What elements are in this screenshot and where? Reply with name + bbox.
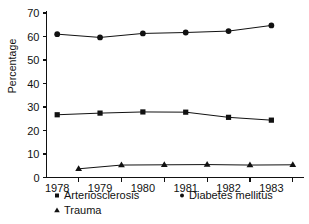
y-tick-label: 50 <box>27 54 39 66</box>
data-point-marker-square <box>183 110 188 115</box>
data-point-marker-triangle <box>289 161 296 167</box>
data-point-marker-triangle <box>161 161 168 167</box>
data-point-marker-square <box>97 111 102 116</box>
data-point-marker-square <box>226 115 231 120</box>
y-tick-label: 10 <box>27 148 39 160</box>
legend-label: Arteriosclerosis <box>64 189 140 201</box>
data-point-marker-dot <box>268 23 274 29</box>
data-point-marker-dot <box>140 31 146 37</box>
legend-item-trauma[interactable]: Trauma <box>54 204 102 216</box>
y-tick-label: 0 <box>33 172 39 184</box>
y-tick-label: 70 <box>27 7 39 19</box>
data-point-marker-square <box>140 109 145 114</box>
series-diabetes-mellitus <box>54 23 274 41</box>
series-layer <box>54 23 296 171</box>
data-point-marker-triangle <box>247 161 254 167</box>
data-point-marker-dot <box>54 31 60 37</box>
chart-legend: ArteriosclerosisDiabetes mellitusTrauma <box>54 189 273 216</box>
data-point-marker-dot <box>226 28 232 34</box>
data-point-marker-triangle <box>204 161 211 167</box>
line-chart: 010203040506070 197819791980198119821983… <box>0 0 309 224</box>
data-point-marker-dot <box>183 30 189 36</box>
data-point-marker-square <box>55 194 59 198</box>
series-line <box>79 165 293 169</box>
y-tick-label: 20 <box>27 125 39 137</box>
series-line <box>57 112 271 120</box>
y-tick-label: 40 <box>27 78 39 90</box>
series-arteriosclerosis <box>55 109 274 122</box>
data-point-marker-triangle <box>118 161 125 167</box>
data-point-marker-dot <box>97 35 103 41</box>
series-line <box>57 25 271 37</box>
data-point-marker-triangle <box>54 208 60 213</box>
series-trauma <box>75 161 296 171</box>
y-tick-label: 30 <box>27 101 39 113</box>
data-point-marker-square <box>269 118 274 123</box>
y-tick-label: 60 <box>27 31 39 43</box>
y-axis-ticks: 010203040506070 <box>27 7 46 184</box>
data-point-marker-square <box>55 112 60 117</box>
chart-figure: Percentage 010203040506070 1978197919801… <box>0 0 309 224</box>
legend-item-diabetes-mellitus[interactable]: Diabetes mellitus <box>180 189 273 201</box>
data-point-marker-dot <box>180 194 184 198</box>
legend-label: Trauma <box>64 204 102 216</box>
legend-item-arteriosclerosis[interactable]: Arteriosclerosis <box>55 189 140 201</box>
legend-label: Diabetes mellitus <box>189 189 273 201</box>
